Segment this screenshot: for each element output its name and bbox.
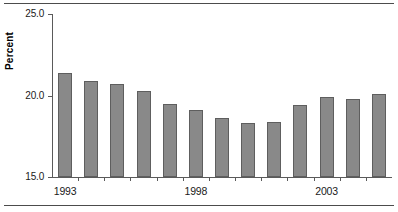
y-axis-tick-label: 20.0 [25,90,44,101]
y-axis-tick: 25.0 [48,14,52,15]
x-axis-tick [314,177,315,181]
x-axis-tick [366,177,367,181]
x-axis-tick [235,177,236,181]
x-axis-line [52,177,392,178]
y-axis-tick-label: 25.0 [25,8,44,19]
bar [110,84,124,177]
x-axis-tick-label: 1998 [185,185,208,197]
x-axis-tick [78,177,79,181]
figure-top-rule [4,3,394,4]
bar [163,104,177,177]
figure-bottom-rule [4,205,394,206]
y-axis-line [52,14,53,177]
y-axis-tick: 20.0 [48,96,52,97]
x-axis-tick [183,177,184,181]
bar [215,118,229,177]
y-axis-tick: 15.0 [48,177,52,178]
x-axis-tick [261,177,262,181]
bar [241,123,255,177]
bar [137,91,151,177]
x-axis-tick [209,177,210,181]
bar [267,122,281,177]
bar [293,105,307,177]
x-axis-tick [104,177,105,181]
bar [346,99,360,177]
y-axis-tick-label: 15.0 [25,171,44,182]
plot-area: 25.020.015.0 199319982003 [52,14,392,177]
x-axis-tick [287,177,288,181]
bar [58,73,72,177]
x-axis-tick-label: 1993 [54,185,77,197]
x-axis-tick [340,177,341,181]
chart-figure: Percent 25.020.015.0 199319982003 [0,0,398,212]
x-axis-tick [130,177,131,181]
bar [189,110,203,177]
x-axis-tick [157,177,158,181]
bar [84,81,98,177]
y-axis-title: Percent [4,32,15,70]
x-axis-tick-label: 2003 [315,185,338,197]
bar [372,94,386,177]
bar [320,97,334,177]
